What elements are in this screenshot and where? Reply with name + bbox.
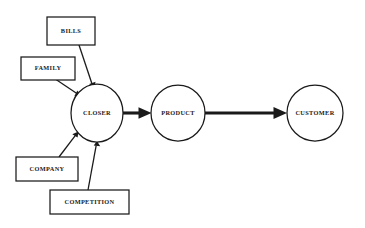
node-competition[interactable]: COMPETITION: [50, 190, 129, 214]
node-company[interactable]: COMPANY: [16, 157, 78, 181]
diagram-svg: BILLS FAMILY COMPANY COMPETITION CLOSER …: [0, 0, 365, 228]
node-competition-label: COMPETITION: [64, 198, 114, 205]
node-family-label: FAMILY: [35, 64, 62, 71]
node-bills[interactable]: BILLS: [47, 17, 95, 45]
node-product[interactable]: PRODUCT: [151, 85, 205, 141]
diagram-canvas: BILLS FAMILY COMPANY COMPETITION CLOSER …: [0, 0, 365, 228]
node-closer-label: CLOSER: [83, 109, 111, 116]
connector-competition-to-closer: [88, 141, 100, 190]
connector-family-to-closer: [56, 80, 80, 97]
connector-closer-to-product: [123, 107, 152, 119]
node-bills-label: BILLS: [61, 27, 81, 34]
node-closer[interactable]: CLOSER: [71, 84, 123, 142]
node-company-label: COMPANY: [30, 165, 65, 172]
connector-product-to-customer: [205, 107, 287, 119]
node-customer-label: CUSTOMER: [295, 109, 334, 116]
node-customer[interactable]: CUSTOMER: [287, 85, 343, 141]
node-family[interactable]: FAMILY: [21, 57, 75, 80]
connector-bills-to-closer: [79, 45, 96, 89]
connector-company-to-closer: [59, 132, 78, 158]
node-product-label: PRODUCT: [161, 109, 195, 116]
